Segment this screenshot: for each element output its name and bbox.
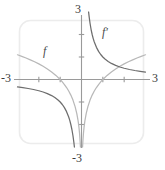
x-axis-max-label: 3 bbox=[152, 72, 158, 84]
y-axis-min-label: -3 bbox=[72, 152, 82, 164]
curve-f-label: f bbox=[43, 45, 46, 57]
plot-canvas bbox=[0, 0, 165, 170]
curve-f-prime-label: f′ bbox=[102, 26, 108, 38]
x-axis-min-label: -3 bbox=[1, 72, 11, 84]
y-axis-max-label: 3 bbox=[75, 3, 81, 15]
function-graph-figure: 3 -3 -3 3 f f′ bbox=[0, 0, 165, 170]
